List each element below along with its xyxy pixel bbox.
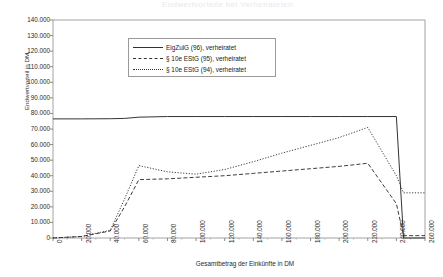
series-line-3 xyxy=(53,127,425,238)
legend-label-estg-94: § 10e EStG (94), verheiratet xyxy=(166,66,246,73)
series-line-2 xyxy=(53,163,425,238)
chart-container: Endwertvorteile bei Verheirateten Endwer… xyxy=(0,0,443,277)
series-line-1 xyxy=(53,117,425,238)
legend-item-estg-94: § 10e EStG (94), verheiratet xyxy=(133,64,271,75)
legend-swatch-solid-icon xyxy=(133,44,163,52)
legend-label-estg-95: § 10e EStG (95), verheiratet xyxy=(166,55,246,62)
legend-item-estg-95: § 10e EStG (95), verheiratet xyxy=(133,53,271,64)
chart-legend: EigZulG (96), verheiratet § 10e EStG (95… xyxy=(128,38,276,77)
legend-item-eigzulg-96: EigZulG (96), verheiratet xyxy=(133,42,271,53)
legend-swatch-dashed-icon xyxy=(133,55,163,63)
legend-label-eigzulg-96: EigZulG (96), verheiratet xyxy=(166,44,236,51)
legend-swatch-dotted-icon xyxy=(133,66,163,74)
